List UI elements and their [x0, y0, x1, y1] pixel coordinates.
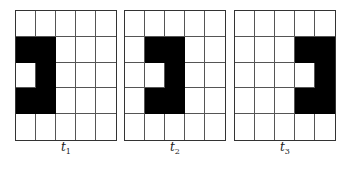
empty-cell: [185, 63, 205, 89]
label-t1: t1: [15, 140, 117, 156]
grid-t3: [234, 10, 336, 141]
filled-cell: [16, 37, 36, 63]
empty-cell: [275, 114, 295, 140]
empty-cell: [235, 114, 255, 140]
empty-cell: [76, 88, 96, 114]
empty-cell: [205, 114, 225, 140]
grid-t1: [15, 10, 117, 141]
empty-cell: [76, 37, 96, 63]
panel-t1: [15, 10, 117, 141]
label-t3-subscript: 3: [285, 147, 290, 156]
filled-cell: [295, 88, 315, 114]
filled-cell: [315, 63, 335, 89]
empty-cell: [275, 11, 295, 37]
empty-cell: [76, 11, 96, 37]
empty-cell: [125, 114, 145, 140]
empty-cell: [275, 63, 295, 89]
filled-cell: [36, 63, 56, 89]
empty-cell: [255, 114, 275, 140]
filled-cell: [295, 37, 315, 63]
empty-cell: [56, 37, 76, 63]
label-t1-subscript: 1: [66, 147, 71, 156]
empty-cell: [165, 11, 185, 37]
empty-cell: [315, 114, 335, 140]
empty-cell: [235, 88, 255, 114]
filled-cell: [165, 88, 185, 114]
filled-cell: [315, 88, 335, 114]
empty-cell: [56, 88, 76, 114]
empty-cell: [125, 88, 145, 114]
empty-cell: [96, 114, 116, 140]
panel-t2: [124, 10, 226, 141]
empty-cell: [16, 114, 36, 140]
filled-cell: [36, 88, 56, 114]
empty-cell: [255, 63, 275, 89]
label-t2: t2: [124, 140, 226, 156]
filled-cell: [16, 88, 36, 114]
filled-cell: [165, 63, 185, 89]
empty-cell: [205, 63, 225, 89]
empty-cell: [96, 88, 116, 114]
filled-cell: [36, 37, 56, 63]
empty-cell: [125, 63, 145, 89]
empty-cell: [255, 88, 275, 114]
empty-cell: [185, 11, 205, 37]
empty-cell: [235, 63, 255, 89]
empty-cell: [76, 114, 96, 140]
empty-cell: [145, 63, 165, 89]
empty-cell: [96, 37, 116, 63]
empty-cell: [205, 88, 225, 114]
empty-cell: [275, 37, 295, 63]
empty-cell: [125, 11, 145, 37]
empty-cell: [205, 37, 225, 63]
empty-cell: [275, 88, 295, 114]
empty-cell: [125, 37, 145, 63]
empty-cell: [235, 11, 255, 37]
empty-cell: [255, 37, 275, 63]
empty-cell: [145, 114, 165, 140]
empty-cell: [315, 11, 335, 37]
empty-cell: [205, 11, 225, 37]
empty-cell: [16, 11, 36, 37]
label-t3: t3: [234, 140, 336, 156]
empty-cell: [56, 11, 76, 37]
empty-cell: [295, 63, 315, 89]
label-t2-subscript: 2: [175, 147, 180, 156]
empty-cell: [36, 11, 56, 37]
empty-cell: [36, 114, 56, 140]
filled-cell: [145, 88, 165, 114]
empty-cell: [185, 114, 205, 140]
empty-cell: [295, 11, 315, 37]
empty-cell: [56, 63, 76, 89]
empty-cell: [235, 37, 255, 63]
empty-cell: [295, 114, 315, 140]
empty-cell: [255, 11, 275, 37]
empty-cell: [96, 11, 116, 37]
filled-cell: [315, 37, 335, 63]
empty-cell: [96, 63, 116, 89]
grid-t2: [124, 10, 226, 141]
empty-cell: [185, 88, 205, 114]
empty-cell: [16, 63, 36, 89]
empty-cell: [56, 114, 76, 140]
empty-cell: [76, 63, 96, 89]
empty-cell: [165, 114, 185, 140]
filled-cell: [145, 37, 165, 63]
empty-cell: [145, 11, 165, 37]
filled-cell: [165, 37, 185, 63]
empty-cell: [185, 37, 205, 63]
panel-t3: [234, 10, 336, 141]
